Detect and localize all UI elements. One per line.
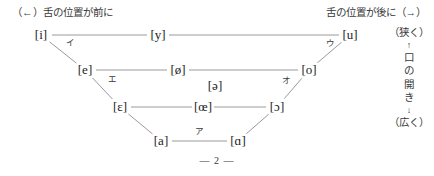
kana-annotation-kana-a: ア	[195, 127, 204, 136]
kana-annotation-kana-u: ウ	[326, 39, 335, 48]
vowel-symbol-scripta: [ɑ]	[229, 134, 246, 148]
openness-wide-label: （広く）	[386, 116, 432, 130]
openness-up-arrow-icon: ↑	[386, 40, 432, 51]
openness-down-arrow-icon: ↓	[386, 105, 432, 116]
vowel-chart-page: （←）舌の位置が前に 舌の位置が後に（→） [i][y][u][e][ø][o]…	[0, 0, 434, 176]
kana-annotation-kana-o: オ	[282, 76, 291, 85]
page-number-footer: — 2 —	[0, 155, 434, 166]
vowel-symbol-u: [u]	[341, 28, 358, 42]
openness-char-0: 口	[386, 51, 432, 65]
kana-annotation-kana-e: エ	[108, 75, 117, 84]
vowel-symbol-layer: [i][y][u][e][ø][o][ə][ɛ][œ][ɔ][a][ɑ]イウエオ…	[0, 0, 434, 176]
openness-char-3: き	[386, 91, 432, 105]
vowel-symbol-openo: [ɔ]	[269, 100, 285, 114]
kana-annotation-kana-i: イ	[66, 38, 75, 47]
vowel-symbol-e: [e]	[77, 63, 93, 77]
vowel-symbol-i: [i]	[34, 28, 48, 42]
vowel-symbol-y: [y]	[149, 28, 166, 42]
openness-narrow-label: （狭く）	[386, 26, 432, 40]
vowel-symbol-oe: [œ]	[193, 100, 213, 114]
vowel-symbol-o: [o]	[300, 63, 317, 77]
vowel-symbol-schwa: [ə]	[207, 79, 223, 93]
vowel-symbol-a: [a]	[153, 134, 169, 148]
openness-char-1: の	[386, 64, 432, 78]
vowel-symbol-oslash: [ø]	[169, 63, 186, 77]
openness-legend: （狭く） ↑ 口 の 開 き ↓ （広く）	[386, 26, 432, 129]
vowel-symbol-epsilon: [ɛ]	[112, 100, 128, 114]
openness-char-2: 開	[386, 78, 432, 92]
